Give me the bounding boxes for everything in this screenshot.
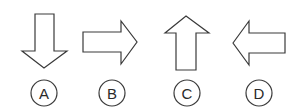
arrow-up-icon bbox=[165, 16, 209, 70]
option-d[interactable]: D bbox=[233, 21, 285, 106]
option-label-b: B bbox=[107, 85, 117, 102]
option-label-c: C bbox=[182, 85, 193, 102]
option-label-d: D bbox=[254, 85, 265, 102]
option-label-a: A bbox=[39, 85, 49, 102]
option-a[interactable]: A bbox=[22, 14, 67, 106]
arrow-down-icon bbox=[22, 14, 67, 68]
option-c[interactable]: C bbox=[165, 16, 209, 106]
arrow-options-figure: A B C D bbox=[0, 0, 297, 111]
arrow-left-icon bbox=[233, 21, 285, 65]
option-b[interactable]: B bbox=[83, 21, 137, 106]
arrow-right-icon bbox=[83, 21, 137, 64]
